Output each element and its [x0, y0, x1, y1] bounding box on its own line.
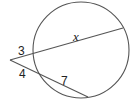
circle	[33, 2, 129, 98]
label-lower-internal: 7	[61, 74, 68, 88]
label-upper-internal: x	[72, 29, 79, 44]
label-lower-external: 4	[19, 67, 26, 81]
label-upper-external: 3	[18, 44, 25, 58]
secant-diagram: 3 x 4 7	[0, 0, 140, 103]
upper-secant-line	[10, 28, 123, 60]
